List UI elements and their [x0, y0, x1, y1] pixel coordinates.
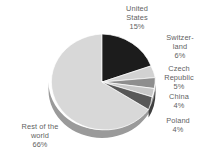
- pie-label-united-states: United States 15%: [109, 4, 165, 32]
- pie-label-poland-value: 4%: [155, 125, 201, 134]
- pie-label-poland-line1: Poland: [155, 116, 201, 125]
- pie-label-rest-of-world: Rest of the world 66%: [6, 122, 74, 150]
- pie-label-czech-republic-line2: Republic: [154, 73, 204, 82]
- pie-label-united-states-line1: United: [109, 4, 165, 13]
- pie-label-china: China 4%: [156, 92, 202, 110]
- pie-label-china-line1: China: [156, 92, 202, 101]
- pie-label-czech-republic-line1: Czech: [154, 64, 204, 73]
- pie-label-rest-of-world-line1: Rest of the: [6, 122, 74, 131]
- pie-chart: United States 15% Switzer- land 6% Czech…: [0, 0, 206, 159]
- pie-label-china-value: 4%: [156, 101, 202, 110]
- pie-label-united-states-line2: States: [109, 13, 165, 22]
- pie-label-united-states-value: 15%: [109, 22, 165, 31]
- pie-label-switzerland: Switzer- land 6%: [156, 33, 204, 61]
- pie-label-rest-of-world-value: 66%: [6, 140, 74, 149]
- pie-label-poland: Poland 4%: [155, 116, 201, 134]
- pie-label-czech-republic: Czech Republic 5%: [154, 64, 204, 92]
- pie-label-czech-republic-value: 5%: [154, 82, 204, 91]
- pie-label-switzerland-line2: land: [156, 42, 204, 51]
- pie-label-switzerland-value: 6%: [156, 51, 204, 60]
- pie-label-switzerland-line1: Switzer-: [156, 33, 204, 42]
- pie-label-rest-of-world-line2: world: [6, 131, 74, 140]
